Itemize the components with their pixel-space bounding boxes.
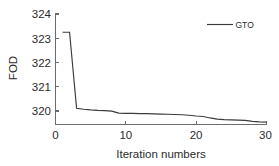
chart-figure: 324 323 322 321 320 0 10 20 30 Iteration… — [0, 0, 279, 166]
x-tick-label-0: 0 — [52, 129, 58, 141]
y-tick-label-321: 321 — [32, 81, 51, 93]
x-tick-labels: 0 10 20 30 — [52, 129, 272, 141]
x-tick-label-30: 30 — [259, 129, 272, 141]
series-line-gto — [63, 32, 267, 122]
y-tick-label-324: 324 — [32, 8, 52, 20]
x-tick-label-20: 20 — [190, 129, 203, 141]
y-tick-label-320: 320 — [32, 105, 51, 117]
y-axis-title: FOD — [7, 56, 19, 80]
y-tick-label-323: 323 — [32, 33, 51, 45]
convergence-chart: 324 323 322 321 320 0 10 20 30 Iteration… — [0, 0, 279, 166]
legend-label-gto: GTO — [236, 20, 255, 30]
y-tick-labels: 324 323 322 321 320 — [32, 8, 52, 117]
x-tick-label-10: 10 — [119, 129, 132, 141]
legend: GTO — [207, 20, 254, 30]
y-tick-label-322: 322 — [32, 57, 51, 69]
x-axis-title: Iteration numbers — [116, 148, 206, 160]
